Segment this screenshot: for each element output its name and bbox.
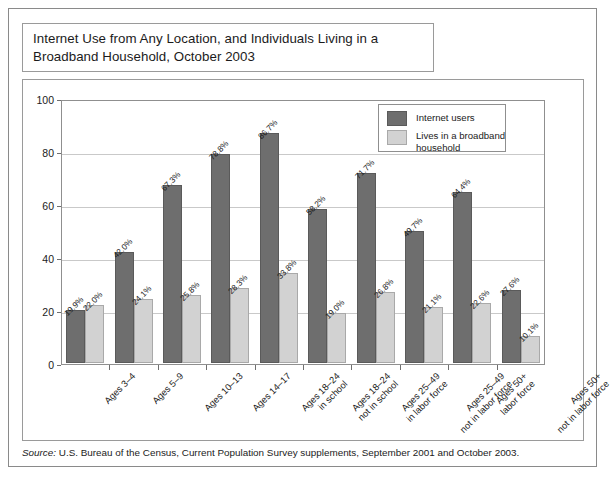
source-label: Source:: [22, 447, 56, 458]
legend-swatch-internet-users: [387, 111, 407, 126]
x-axis-tick-mark: [206, 365, 207, 370]
figure-page: Internet Use from Any Location, and Indi…: [8, 8, 597, 467]
bar: [502, 290, 521, 363]
gridline: [62, 154, 544, 155]
bar: [230, 288, 249, 363]
x-axis-category-label: Ages 50+not in labor force: [547, 371, 611, 436]
legend-label-broadband-household: Lives in a broadband household: [416, 130, 508, 153]
legend-swatch-broadband-household: [387, 130, 407, 145]
bar: [279, 273, 298, 363]
x-axis-tick-mark: [497, 365, 498, 370]
bar: [134, 299, 153, 363]
x-axis-tick-mark: [351, 365, 352, 370]
bar: [472, 303, 491, 363]
x-axis-tick-mark: [109, 365, 110, 370]
title-box: Internet Use from Any Location, and Indi…: [22, 23, 434, 72]
x-axis-category-label: Ages 3–4: [103, 371, 139, 407]
source-note-text: Source: U.S. Bureau of the Census, Curre…: [22, 446, 584, 459]
y-axis-tick-mark: [57, 312, 61, 313]
y-axis-tick-mark: [57, 206, 61, 207]
x-axis-category-label: Ages 25–49in labor force: [397, 371, 451, 425]
x-axis-tick-mark: [400, 365, 401, 370]
x-axis-tick-mark: [303, 365, 304, 370]
chart-legend: Internet users Lives in a broadband hous…: [378, 104, 506, 152]
x-axis-category-label: Ages 5–9: [151, 371, 187, 407]
x-axis-category-label: Ages 18–24not in school: [348, 371, 400, 423]
y-axis-tick-mark: [57, 259, 61, 260]
y-axis-tick-mark: [57, 100, 61, 101]
source-body: U.S. Bureau of the Census, Current Popul…: [56, 447, 519, 458]
y-axis-tick-label: 0: [24, 359, 54, 371]
bar: [308, 209, 327, 363]
y-axis-tick-label: 100: [24, 94, 54, 106]
bar: [115, 252, 134, 363]
x-axis-category-label: Ages 14–17: [251, 371, 294, 414]
bar: [260, 133, 279, 363]
y-axis-tick-label: 60: [24, 200, 54, 212]
bar: [376, 292, 395, 363]
page-title: Internet Use from Any Location, and Indi…: [33, 30, 429, 66]
source-note: Source: U.S. Bureau of the Census, Curre…: [22, 446, 584, 459]
x-axis-tick-mark: [158, 365, 159, 370]
x-axis-category-label: Ages 18–24in school: [299, 371, 350, 422]
x-axis-category-label: Ages 10–13: [202, 371, 245, 414]
bar: [424, 307, 443, 363]
bar: [85, 305, 104, 363]
x-axis-tick-mark: [448, 365, 449, 370]
y-axis-tick-mark: [57, 365, 61, 366]
x-axis-tick-mark: [255, 365, 256, 370]
bar: [453, 192, 472, 363]
y-axis-tick-label: 20: [24, 306, 54, 318]
y-axis-tick-label: 40: [24, 253, 54, 265]
y-axis-tick-label: 80: [24, 147, 54, 159]
chart-frame: 020406080100 19.9%22.0%42.0%24.1%67.3%25…: [22, 79, 584, 441]
bar: [182, 295, 201, 363]
bar: [405, 231, 424, 363]
bar: [66, 310, 85, 363]
bar: [357, 173, 376, 363]
legend-label-internet-users: Internet users: [416, 112, 508, 124]
bar: [211, 154, 230, 363]
bar: [163, 185, 182, 363]
y-axis-tick-mark: [57, 153, 61, 154]
